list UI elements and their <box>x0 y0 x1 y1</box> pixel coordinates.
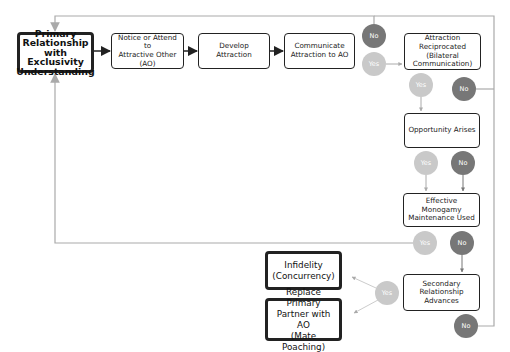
primary-relationship-node: Primary Relationship with Exclusivity Un… <box>17 32 94 73</box>
maintenance-yes-decision: Yes <box>413 231 437 255</box>
monogamy-maintenance-node: Effective Monogamy Maintenance Used <box>403 193 480 227</box>
communicate-attraction-node: Communicate Attraction to AO <box>284 33 355 69</box>
opportunity-no-decision: No <box>451 151 475 175</box>
opportunity-yes-decision: Yes <box>414 151 438 175</box>
opportunity-arises-node: Opportunity Arises <box>404 113 480 148</box>
communicate-yes-decision: Yes <box>362 52 386 76</box>
reciprocated-no-decision: No <box>452 77 476 101</box>
secondary-no-decision: No <box>454 314 478 338</box>
communicate-no-decision: No <box>362 24 386 48</box>
mate-poaching-outcome-node: Replace Primary Partner with AO (Mate Po… <box>265 298 342 341</box>
notice-attractive-other-node: Notice or Attend to Attractive Other (AO… <box>111 33 184 69</box>
reciprocated-yes-decision: Yes <box>409 73 433 97</box>
secondary-relationship-node: Secondary Relationship Advances <box>403 274 480 311</box>
secondary-yes-decision: Yes <box>375 281 399 305</box>
maintenance-no-decision: No <box>450 231 474 255</box>
attraction-reciprocated-node: Attraction Reciprocated (Bilateral Commu… <box>404 33 481 70</box>
infidelity-outcome-node: Infidelity (Concurrency) <box>265 251 342 290</box>
develop-attraction-node: Develop Attraction <box>198 33 270 69</box>
